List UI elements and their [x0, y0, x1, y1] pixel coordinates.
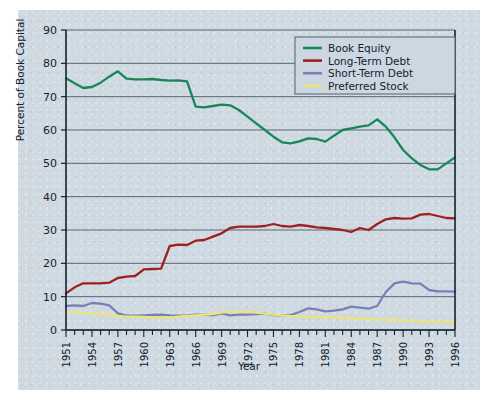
legend-label: Preferred Stock — [328, 80, 410, 92]
y-axis-ticks: 0102030405060708090 — [43, 24, 66, 337]
svg-text:1987: 1987 — [372, 342, 383, 367]
svg-text:50: 50 — [43, 157, 57, 170]
svg-text:1960: 1960 — [139, 342, 150, 367]
svg-text:1984: 1984 — [346, 342, 357, 367]
svg-text:1954: 1954 — [87, 342, 98, 367]
svg-text:1993: 1993 — [424, 342, 435, 367]
svg-text:0: 0 — [50, 324, 57, 337]
svg-text:1975: 1975 — [268, 342, 279, 367]
svg-text:20: 20 — [43, 257, 57, 270]
plot-area: 0102030405060708090 19511954195719601963… — [18, 10, 480, 390]
x-axis-ticks: 1951195419571960196319661969197219751978… — [61, 330, 461, 367]
legend-label: Book Equity — [328, 42, 391, 54]
svg-text:1972: 1972 — [243, 342, 254, 367]
svg-text:70: 70 — [43, 91, 57, 104]
svg-text:1951: 1951 — [61, 342, 72, 367]
legend-label: Long-Term Debt — [328, 55, 410, 67]
chart-figure: Percent of Book Capital Year 01020304050… — [18, 10, 480, 390]
svg-text:1990: 1990 — [398, 342, 409, 367]
svg-text:1981: 1981 — [320, 342, 331, 367]
svg-text:40: 40 — [43, 191, 57, 204]
svg-text:80: 80 — [43, 57, 57, 70]
svg-text:1963: 1963 — [165, 342, 176, 367]
svg-text:1996: 1996 — [450, 342, 461, 367]
svg-text:1957: 1957 — [113, 342, 124, 367]
svg-text:90: 90 — [43, 24, 57, 37]
svg-text:60: 60 — [43, 124, 57, 137]
legend-label: Short-Term Debt — [328, 67, 413, 79]
svg-text:10: 10 — [43, 291, 57, 304]
svg-text:1966: 1966 — [191, 342, 202, 367]
svg-text:1978: 1978 — [294, 342, 305, 367]
svg-text:1969: 1969 — [217, 342, 228, 367]
svg-text:30: 30 — [43, 224, 57, 237]
chart-legend: Book EquityLong-Term DebtShort-Term Debt… — [295, 37, 455, 94]
